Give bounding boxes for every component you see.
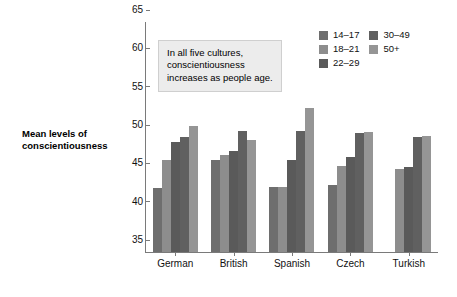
bar: [162, 160, 171, 252]
x-axis-tick-mark: [292, 252, 293, 256]
bar: [269, 187, 278, 252]
x-axis-tick-mark: [175, 252, 176, 256]
bar: [413, 137, 422, 252]
legend-swatch: [319, 59, 328, 68]
y-axis-tick-label: 55: [132, 81, 143, 93]
y-axis-tick-label: 35: [132, 234, 143, 246]
bar: [337, 166, 346, 252]
y-axis-tick: 50: [132, 119, 146, 131]
legend-swatch: [369, 31, 378, 40]
annotation-line-1: In all five cultures,: [167, 47, 274, 59]
x-axis-label: Czech: [336, 258, 364, 269]
y-axis-title-line-1: Mean levels of: [22, 128, 114, 140]
legend-item[interactable]: 50+: [369, 44, 409, 54]
y-axis-tick-label: 45: [132, 157, 143, 169]
annotation-callout: In all five cultures, conscientiousness …: [158, 40, 282, 92]
y-axis-tick: 60: [132, 42, 146, 54]
legend-label: 50+: [383, 44, 399, 54]
bar: [395, 169, 404, 252]
y-axis-title-line-2: conscientiousness: [22, 140, 114, 152]
y-axis-tick-label: 60: [132, 42, 143, 54]
x-axis-label: British: [220, 258, 248, 269]
x-axis-tick-mark: [350, 252, 351, 256]
x-axis-label: Turkish: [393, 258, 425, 269]
legend-column-left: 14–1718–2122–29: [319, 30, 359, 68]
legend-label: 14–17: [333, 30, 359, 40]
y-axis-tick-label: 50: [132, 119, 143, 131]
bar: [278, 187, 287, 252]
bar: [211, 160, 220, 252]
annotation-line-3: increases as people age.: [167, 72, 274, 84]
y-axis-tick: 65: [132, 4, 146, 16]
legend-swatch: [319, 31, 328, 40]
y-axis-tick: 40: [132, 196, 146, 208]
legend-swatch: [369, 45, 378, 54]
bar: [364, 132, 373, 252]
annotation-line-2: conscientiousness: [167, 59, 274, 71]
bar: [171, 142, 180, 252]
conscientiousness-by-age-chart: Mean levels of conscientiousness 3540455…: [0, 0, 457, 297]
y-axis-title: Mean levels of conscientiousness: [22, 128, 114, 152]
bar: [229, 151, 238, 252]
legend-label: 18–21: [333, 44, 359, 54]
legend-item[interactable]: 30–49: [369, 30, 409, 40]
bar: [296, 131, 305, 252]
bar: [355, 133, 364, 252]
y-axis-tick: 55: [132, 81, 146, 93]
bar: [180, 137, 189, 252]
y-axis-tick: 35: [132, 234, 146, 246]
bar: [153, 188, 162, 252]
bar: [404, 167, 413, 252]
bar: [422, 136, 431, 252]
x-axis-tick-mark: [409, 252, 410, 256]
bar: [287, 160, 296, 252]
y-axis-tick-label: 65: [132, 4, 143, 16]
legend-column-right: 30–4950+: [369, 30, 409, 68]
legend-label: 30–49: [383, 30, 409, 40]
legend-item[interactable]: 18–21: [319, 44, 359, 54]
y-axis-tick: 45: [132, 157, 146, 169]
y-axis-tick-mark: [146, 10, 150, 11]
bar: [305, 108, 314, 252]
legend-label: 22–29: [333, 58, 359, 68]
legend-item[interactable]: 22–29: [319, 58, 359, 68]
bar: [220, 155, 229, 252]
legend-item[interactable]: 14–17: [319, 30, 359, 40]
bar: [328, 185, 337, 252]
bar: [247, 140, 256, 252]
bar: [189, 126, 198, 253]
legend-swatch: [319, 45, 328, 54]
y-axis-tick-label: 40: [132, 196, 143, 208]
x-axis-label: German: [157, 258, 193, 269]
bar: [346, 157, 355, 252]
legend: 14–1718–2122–29 30–4950+: [319, 30, 410, 68]
x-axis-tick-mark: [234, 252, 235, 256]
bar: [238, 131, 247, 252]
x-axis-label: Spanish: [274, 258, 310, 269]
